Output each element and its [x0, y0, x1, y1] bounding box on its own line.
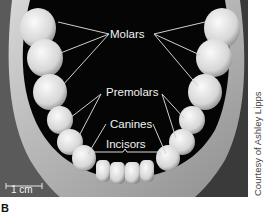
molar-right-3 — [188, 74, 222, 110]
incisors-bracket — [90, 149, 160, 157]
incisor-2 — [110, 162, 125, 184]
photo-credit: Courtesy of Ashley Lipps — [252, 91, 263, 196]
incisor-4 — [140, 160, 154, 182]
molars-label: Molars — [110, 28, 145, 40]
incisor-3 — [125, 162, 140, 184]
canines-label: Canines — [110, 118, 152, 130]
molar-left-3 — [33, 74, 67, 110]
canine-right — [156, 145, 180, 171]
incisor-1 — [96, 160, 110, 182]
molar-right-2 — [196, 39, 232, 77]
incisors-label: Incisors — [106, 138, 146, 150]
scale-bar-label: 1 cm — [11, 184, 33, 195]
panel-letter: B — [1, 202, 9, 214]
premolars-label: Premolars — [106, 86, 158, 98]
canine-left — [72, 145, 96, 171]
dental-arch-photo: Molars Premolars Canines Incisors 1 cm — [0, 0, 248, 197]
molar-left-2 — [27, 39, 63, 77]
